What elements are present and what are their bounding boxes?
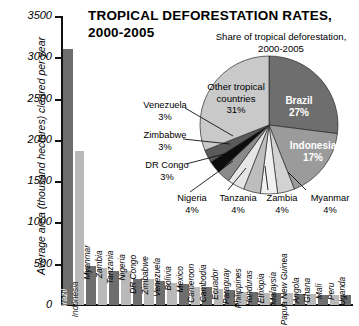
pie-slice-brazil[interactable] <box>269 56 338 134</box>
y-tick-mark <box>55 99 62 101</box>
bar-label: Honduras <box>245 270 253 306</box>
bar-label: Nigeria <box>117 254 125 280</box>
bar-label: Malaysia <box>268 272 276 305</box>
y-tick-label: 2500 <box>28 93 52 104</box>
bar-label: Cameroon <box>187 263 195 302</box>
pie-callout-venezuela: Venezuela 3% <box>132 100 198 123</box>
bar-label: Papua New Guinea <box>280 253 288 325</box>
bar-label: DR Congo <box>129 255 137 294</box>
pie-callout-tanzania-pct: 4% <box>212 205 264 217</box>
pie-callout-nigeria-name: Nigeria <box>168 193 216 205</box>
y-tick-label: 3000 <box>28 51 52 62</box>
pie-callout-myanmar-pct: 4% <box>303 205 357 217</box>
pie-callout-tanzania: Tanzania 4% <box>212 193 264 216</box>
y-tick-label: 1500 <box>28 175 52 186</box>
pie-callout-zimbabwe: Zimbabwe 3% <box>132 130 198 153</box>
bar-label: Mexico <box>175 266 183 292</box>
bar-label: Peru <box>326 282 334 300</box>
pie-callout-drcongo-name: DR Congo <box>135 160 199 172</box>
y-tick-mark <box>55 222 62 224</box>
bar-label: Tanzania <box>106 250 114 283</box>
bar-label: Myanmar <box>83 245 91 280</box>
pie-slices <box>199 55 339 195</box>
deforestation-figure: TROPICAL DEFORESTATION RATES, 2000-2005 … <box>0 0 359 326</box>
pie-callout-drcongo-pct: 3% <box>135 172 199 184</box>
bar-label: Zambia <box>94 250 102 278</box>
bar-indonesia[interactable]: Indonesia <box>75 151 85 305</box>
y-tick-label: 1000 <box>28 216 52 227</box>
y-tick-label: 0 <box>46 299 52 310</box>
y-axis-ticks: 3500300025002000150010005000 <box>8 0 52 326</box>
pie-callout-drcongo: DR Congo 3% <box>135 160 199 183</box>
pie-callout-nigeria-pct: 4% <box>168 205 216 217</box>
pie-callout-tanzania-name: Tanzania <box>212 193 264 205</box>
bar-label: Ethiopia <box>257 274 265 304</box>
y-tick-label: 2000 <box>28 134 52 145</box>
bar-label: Mali <box>315 283 323 298</box>
y-tick-mark <box>55 264 62 266</box>
y-tick-mark <box>55 57 62 59</box>
bar-label: Brazil <box>59 289 67 310</box>
pie-callout-myanmar: Myanmar 4% <box>303 193 357 216</box>
y-tick-mark <box>55 16 62 18</box>
pie-callout-zimbabwe-name: Zimbabwe <box>132 130 198 142</box>
y-tick-mark <box>55 181 62 183</box>
bar-label: Cambodia <box>199 264 207 302</box>
pie-chart <box>199 55 339 195</box>
bar-label: Ghana <box>303 278 311 303</box>
y-tick-label: 500 <box>34 258 52 269</box>
bar-label: Venezuela <box>152 258 160 297</box>
bar-label: Philippines <box>233 268 241 308</box>
bar-label: Uganda <box>338 277 346 306</box>
bar-label: Indonesia <box>71 281 79 317</box>
y-tick-label: 3500 <box>28 10 52 21</box>
bar-label: Angola <box>291 277 299 303</box>
pie-callout-zambia-name: Zambia <box>258 193 306 205</box>
pie-callout-zambia: Zambia 4% <box>258 193 306 216</box>
pie-callout-zimbabwe-pct: 3% <box>132 142 198 154</box>
bar-label: Paraguay <box>222 268 230 304</box>
pie-callout-venezuela-name: Venezuela <box>132 100 198 112</box>
pie-callout-myanmar-name: Myanmar <box>303 193 357 205</box>
pie-callout-zambia-pct: 4% <box>258 205 306 217</box>
bar-label: Ecuador <box>210 269 218 300</box>
y-tick-mark <box>55 140 62 142</box>
bar-label: Bolivia <box>164 266 172 290</box>
pie-callout-venezuela-pct: 3% <box>132 112 198 124</box>
bar-brazil[interactable]: Brazil <box>63 49 73 305</box>
bar-uganda[interactable]: Uganda <box>341 295 351 305</box>
bar-label: Zimbabwe <box>141 256 149 294</box>
pie-callout-nigeria: Nigeria 4% <box>168 193 216 216</box>
